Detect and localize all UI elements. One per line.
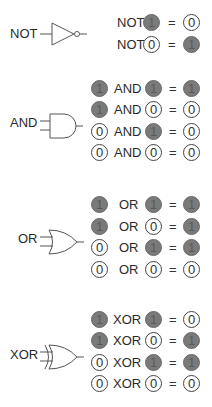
and-row-1: 1 AND 1 = 1: [0, 80, 212, 100]
xor-row-2: 1 XOR 0 = 1: [0, 332, 212, 352]
equals-sign: =: [169, 240, 177, 255]
bit-one: 1: [145, 196, 162, 213]
bit-zero: 0: [143, 36, 160, 53]
equals-sign: =: [168, 15, 176, 30]
bit-zero: 0: [145, 332, 162, 349]
xor-row-3: 0 XOR 1 = 1: [0, 354, 212, 374]
bit-zero: 0: [91, 354, 108, 371]
and-row-2: 1 AND 0 = 0: [0, 101, 212, 121]
bit-one: 1: [91, 80, 108, 97]
operator: NOT: [117, 37, 144, 52]
bit-one: 1: [183, 36, 200, 53]
operator: XOR: [113, 376, 141, 391]
bit-zero: 0: [183, 261, 200, 278]
operator: OR: [119, 262, 139, 277]
equals-sign: =: [169, 355, 177, 370]
bit-zero: 0: [183, 101, 200, 118]
bit-zero: 0: [145, 144, 162, 161]
bit-zero: 0: [145, 101, 162, 118]
bit-zero: 0: [91, 239, 108, 256]
bit-one: 1: [145, 354, 162, 371]
bit-one: 1: [183, 332, 200, 349]
equals-sign: =: [169, 219, 177, 234]
equals-sign: =: [169, 333, 177, 348]
or-row-2: 1 OR 0 = 1: [0, 218, 212, 238]
bit-zero: 0: [145, 375, 162, 392]
bit-zero: 0: [183, 14, 200, 31]
bit-zero: 0: [91, 375, 108, 392]
or-row-1: 1 OR 1 = 1: [0, 196, 212, 216]
bit-one: 1: [91, 101, 108, 118]
bit-zero: 0: [183, 311, 200, 328]
bit-one: 1: [183, 80, 200, 97]
not-row-1: NOT 1 = 0: [0, 14, 212, 34]
bit-zero: 0: [145, 261, 162, 278]
bit-one: 1: [91, 218, 108, 235]
bit-zero: 0: [91, 123, 108, 140]
bit-one: 1: [145, 80, 162, 97]
operator: OR: [119, 219, 139, 234]
xor-row-1: 1 XOR 1 = 0: [0, 311, 212, 331]
bit-zero: 0: [183, 144, 200, 161]
and-row-3: 0 AND 1 = 0: [0, 123, 212, 143]
equals-sign: =: [169, 376, 177, 391]
equals-sign: =: [169, 81, 177, 96]
equals-sign: =: [169, 124, 177, 139]
bit-zero: 0: [145, 218, 162, 235]
operator: AND: [114, 124, 141, 139]
operator: AND: [114, 81, 141, 96]
or-row-4: 0 OR 0 = 0: [0, 261, 212, 281]
bit-zero: 0: [183, 123, 200, 140]
bit-one: 1: [91, 196, 108, 213]
bit-one: 1: [145, 311, 162, 328]
bit-zero: 0: [91, 261, 108, 278]
bit-zero: 0: [183, 375, 200, 392]
operator: OR: [119, 197, 139, 212]
equals-sign: =: [169, 262, 177, 277]
equals-sign: =: [169, 145, 177, 160]
bit-one: 1: [183, 196, 200, 213]
operator: XOR: [113, 333, 141, 348]
operator: XOR: [113, 312, 141, 327]
operator: XOR: [113, 355, 141, 370]
operator: OR: [119, 240, 139, 255]
bit-one: 1: [183, 354, 200, 371]
bit-one: 1: [145, 123, 162, 140]
operator: NOT: [117, 15, 144, 30]
bit-one: 1: [145, 239, 162, 256]
bit-one: 1: [91, 332, 108, 349]
bit-one: 1: [183, 218, 200, 235]
not-row-2: NOT 0 = 1: [0, 36, 212, 56]
equals-sign: =: [169, 197, 177, 212]
operator: AND: [114, 102, 141, 117]
and-row-4: 0 AND 0 = 0: [0, 144, 212, 164]
xor-row-4: 0 XOR 0 = 0: [0, 375, 212, 395]
or-row-3: 0 OR 1 = 1: [0, 239, 212, 259]
equals-sign: =: [169, 312, 177, 327]
equals-sign: =: [168, 37, 176, 52]
bit-one: 1: [183, 239, 200, 256]
bit-one: 1: [143, 14, 160, 31]
bit-zero: 0: [91, 144, 108, 161]
bit-one: 1: [91, 311, 108, 328]
operator: AND: [114, 145, 141, 160]
equals-sign: =: [169, 102, 177, 117]
